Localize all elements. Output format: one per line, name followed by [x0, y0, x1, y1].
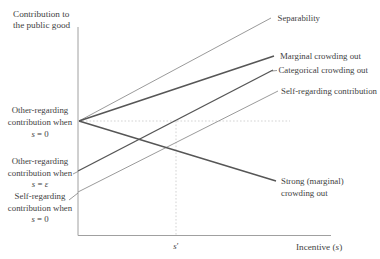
- label-strong-crowding-out-line-1: Strong (marginal): [281, 176, 344, 186]
- series-line-strong-marginal-crowding-out: [79, 121, 276, 181]
- annotation-other-regarding-s0-line-3: s = 0: [31, 129, 49, 139]
- y-axis-title-line-2: the public good: [13, 20, 71, 30]
- y-axis-title-line-1: Contribution to: [13, 9, 70, 19]
- series-line-self-regarding-contribution: [78, 91, 278, 192]
- series-line-categorical-crowding-out: [78, 70, 273, 171]
- figure-crowding-out-chart: Contribution tothe public goodOther-rega…: [0, 0, 380, 259]
- labels-group: Contribution tothe public goodOther-rega…: [8, 9, 378, 253]
- leader-self-regarding-s0: [69, 193, 78, 200]
- annotation-self-regarding-s0-line-3: s = 0: [31, 214, 49, 224]
- annotation-other-regarding-s0-line-1: Other-regarding: [12, 105, 69, 115]
- annotation-other-regarding-eps-line-1: Other-regarding: [12, 156, 69, 166]
- x-axis-label: Incentive (s): [296, 242, 342, 252]
- series-line-separability: [79, 18, 271, 121]
- label-self-regarding-contribution: Self-regarding contribution: [281, 86, 378, 96]
- label-categorical-crowding-out: Categorical crowding out: [279, 65, 369, 75]
- label-separability: Separability: [278, 13, 321, 23]
- annotation-self-regarding-s0-line-2: contribution when: [8, 203, 73, 213]
- label-strong-crowding-out-line-2: crowding out: [281, 188, 328, 198]
- series-line-marginal-crowding-out: [79, 56, 274, 121]
- annotation-other-regarding-eps-line-3: s = ε: [32, 179, 49, 189]
- x-tick-s-prime: s′: [173, 241, 178, 251]
- leader-other-regarding-eps: [73, 172, 78, 175]
- annotation-other-regarding-s0-line-2: contribution when: [8, 117, 73, 127]
- label-marginal-crowding-out: Marginal crowding out: [280, 51, 362, 61]
- annotation-self-regarding-s0-line-1: Self-regarding: [15, 191, 66, 201]
- leader-categorical: [272, 71, 277, 72]
- annotation-other-regarding-eps-line-2: contribution when: [8, 168, 73, 178]
- series-lines-group: [78, 18, 278, 192]
- chart-canvas: Contribution tothe public goodOther-rega…: [0, 0, 380, 259]
